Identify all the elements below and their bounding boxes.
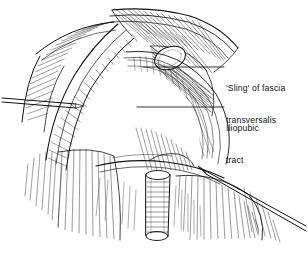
label-iliopubic-line2: tract (226, 155, 259, 166)
label-iliopubic-line1: Iliopubic (226, 123, 259, 134)
label-iliopubic-tract: Iliopubic tract (226, 102, 259, 187)
sling-fascia-fan (124, 51, 229, 168)
label-sling-line1: 'Sling' of fascia (226, 83, 285, 94)
spermatic-cord (146, 171, 170, 241)
deep-inguinal-ring (151, 42, 189, 74)
anatomical-figure: 'Sling' of fascia transversalis Iliopubi… (0, 0, 308, 263)
shadow-wedge (136, 128, 192, 170)
lower-left-muscle (25, 149, 120, 240)
